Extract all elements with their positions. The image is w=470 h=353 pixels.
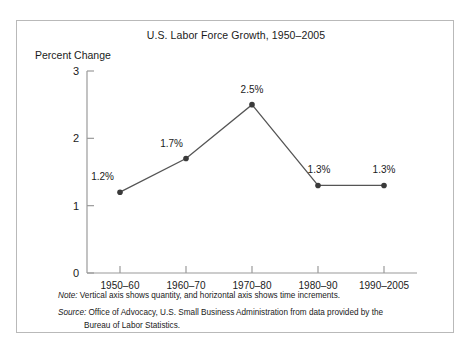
y-tick-label: 0	[73, 267, 79, 279]
data-point-labels: 1.2%1.7%2.5%1.3%1.3%	[91, 84, 395, 183]
footnote-note-lead: Note:	[58, 291, 78, 300]
chart-axes	[87, 71, 417, 273]
data-point-label: 1.3%	[373, 164, 396, 175]
footnote-source-text: Office of Advocacy, U.S. Small Business …	[89, 308, 384, 317]
data-point-marker	[183, 156, 189, 162]
data-point-marker	[117, 189, 123, 195]
data-point-marker	[249, 102, 255, 108]
data-point-marker	[381, 183, 387, 189]
footnote-source-text-line2: Bureau of Labor Statistics.	[58, 319, 443, 333]
data-point-label: 1.2%	[91, 171, 114, 182]
figure-panel: U.S. Labor Force Growth, 1950–2005 Perce…	[16, 20, 454, 333]
data-point-markers	[117, 102, 387, 195]
data-point-marker	[315, 183, 321, 189]
footnote-source-lead: Source:	[58, 308, 86, 317]
y-tick-label: 2	[73, 132, 79, 144]
data-point-label: 1.3%	[308, 164, 331, 175]
y-tick-label: 1	[73, 200, 79, 212]
y-tick-label: 3	[73, 65, 79, 77]
footnote-note: Note: Vertical axis shows quantity, and …	[58, 289, 443, 303]
data-point-label: 1.7%	[160, 138, 183, 149]
footnote-source: Source: Office of Advocacy, U.S. Small B…	[58, 306, 443, 333]
data-point-label: 2.5%	[241, 84, 264, 95]
footnote-note-text: Vertical axis shows quantity, and horizo…	[80, 291, 340, 300]
line-chart-plot: 0123 1950–601960–701970–801980–901990–20…	[17, 21, 455, 334]
footnotes: Note: Vertical axis shows quantity, and …	[58, 289, 443, 336]
x-tick-group: 1950–601960–701970–801980–901990–2005	[101, 266, 410, 291]
